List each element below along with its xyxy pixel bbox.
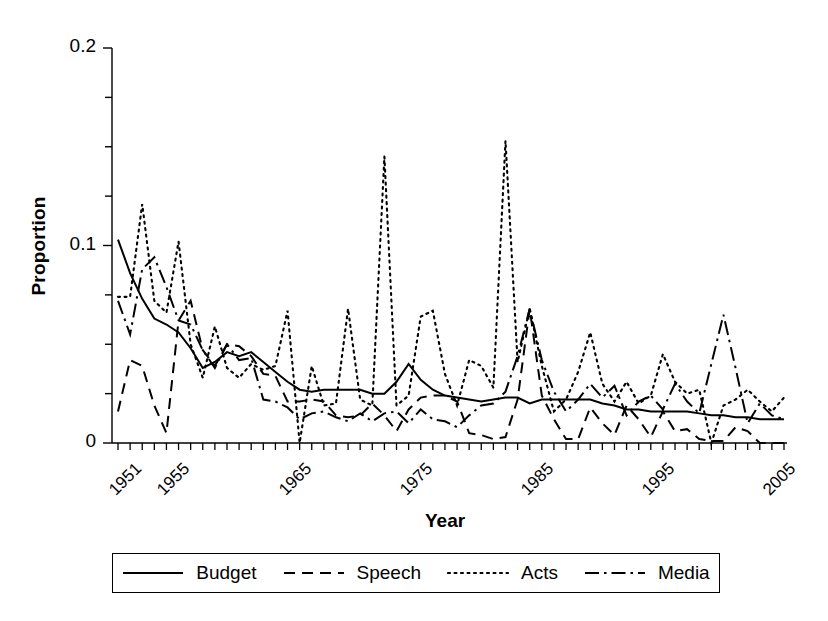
series-line-speech [118,301,784,443]
x-axis-title: Year [425,510,465,532]
legend-key-media [584,565,646,581]
series-line-media [118,257,784,427]
legend-label-speech: Speech [357,562,421,584]
y-axis-label-0.2: 0.2 [0,35,96,57]
legend-item-media[interactable]: Media [584,562,710,584]
chart-figure: 0.20.10Proportion19511955196519751985199… [0,0,828,621]
legend-key-acts [447,565,509,581]
y-axis-label-0: 0 [0,430,96,452]
chart-legend: BudgetSpeechActsMedia [112,553,720,593]
legend-item-acts[interactable]: Acts [447,562,558,584]
legend-label-acts: Acts [521,562,558,584]
legend-label-budget: Budget [196,562,256,584]
legend-item-speech[interactable]: Speech [283,562,421,584]
line-chart-canvas [0,0,828,621]
legend-label-media: Media [658,562,710,584]
legend-key-budget [122,565,184,581]
legend-item-budget[interactable]: Budget [122,562,256,584]
legend-key-speech [283,565,345,581]
y-axis-title: Proportion [27,196,49,295]
